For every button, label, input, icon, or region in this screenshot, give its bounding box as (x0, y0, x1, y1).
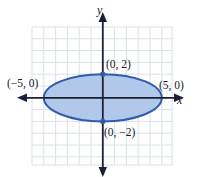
label-covertex-bottom: (0, −2) (104, 126, 136, 139)
ellipse-graph: x y (−5, 0) (5, 0) (0, 2) (0, −2) (0, 0, 198, 177)
label-vertex-left: (−5, 0) (7, 77, 39, 90)
coordinate-plane-figure: x y (−5, 0) (5, 0) (0, 2) (0, −2) (0, 0, 198, 177)
point-marker-covertex-top (100, 72, 105, 77)
point-marker-covertex-bottom (100, 119, 105, 124)
label-covertex-top: (0, 2) (106, 58, 131, 71)
x-axis-arrow-left (17, 94, 27, 102)
label-vertex-right: (5, 0) (159, 79, 184, 92)
x-axis-label: x (176, 93, 183, 107)
y-axis-arrow-down (99, 167, 107, 177)
y-axis-label: y (96, 3, 103, 17)
